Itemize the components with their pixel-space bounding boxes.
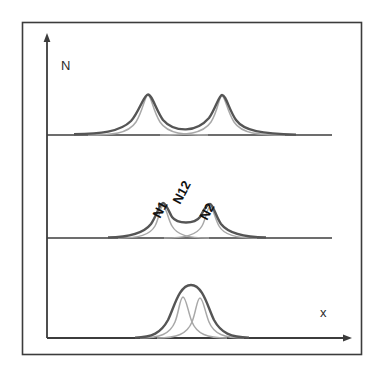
x-axis	[47, 334, 352, 341]
panel-middle-partial	[108, 203, 266, 238]
y-axis	[44, 33, 51, 338]
figure-container: N x N1 N12 N2	[0, 0, 380, 372]
gaussian-overlap-figure: N x N1 N12 N2	[0, 0, 380, 372]
sum-curve-bottom	[135, 285, 249, 338]
curve-label-n12: N12	[169, 178, 193, 206]
sum-curve-top	[74, 95, 296, 135]
y-axis-arrowhead	[44, 33, 51, 42]
panel-bottom-merged	[135, 285, 249, 338]
sum-curve-middle	[108, 203, 266, 237]
x-axis-arrowhead	[343, 334, 352, 341]
panel-top-resolved	[74, 95, 296, 136]
curve-label-n1: N1	[149, 199, 170, 221]
x-axis-label: x	[320, 305, 327, 320]
y-axis-label: N	[61, 58, 70, 73]
